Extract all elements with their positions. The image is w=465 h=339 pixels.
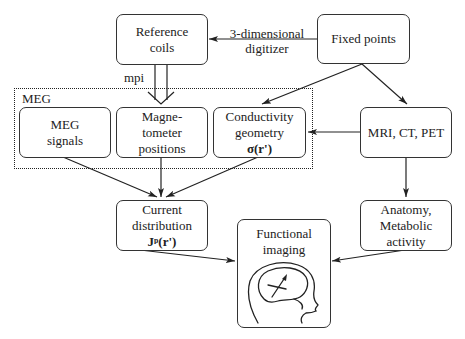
anatomy-line3: activity [387,234,426,250]
digitizer-line1: 3-dimensional [222,26,312,41]
digitizer-line2: digitizer [222,41,312,56]
meg-group-label: MEG [22,91,51,106]
fixed-points-box: Fixed points [317,14,410,64]
functional-line1: Functional [256,226,312,242]
anatomy-line1: Anatomy, [381,202,432,218]
current-line2: distribution [132,218,192,234]
arrow-current-imaging [140,250,235,261]
mri-ct-pet-label: MRI, CT, PET [368,125,444,141]
fixed-points-label: Fixed points [331,31,396,47]
anatomy-line2: Metabolic [380,218,433,234]
digitizer-label: 3-dimensional digitizer [222,26,312,56]
conductivity-math: σ(r') [247,141,272,157]
current-line1: Current [142,202,182,218]
magnetometer-line3: positions [139,141,186,157]
meg-signals-line1: MEG [51,117,80,133]
functional-line2: imaging [263,242,306,258]
anatomy-box: Anatomy, Metabolic activity [360,200,452,251]
mpi-label: mpi [124,70,144,85]
reference-coils-line1: Reference [136,24,189,40]
head-with-dipole-icon [244,259,324,325]
current-math: Jᵖ(r') [148,234,177,250]
reference-coils-line2: coils [150,40,175,56]
functional-imaging-box: Functional imaging [237,219,331,328]
meg-signals-line2: signals [47,133,83,149]
current-distribution-box: Current distribution Jᵖ(r') [116,200,208,251]
magnetometer-line1: Magne- [142,109,182,125]
conductivity-geometry-box: Conductivity geometry σ(r') [213,107,306,158]
conductivity-line2: geometry [235,125,284,141]
conductivity-line1: Conductivity [226,109,294,125]
meg-signals-box: MEG signals [19,107,111,158]
arrow-anatomy-imaging [332,250,405,261]
magnetometer-positions-box: Magne- tometer positions [116,107,208,158]
mri-ct-pet-box: MRI, CT, PET [360,107,452,158]
arrow-fixed-mri [362,64,407,104]
reference-coils-box: Reference coils [116,14,208,65]
magnetometer-line2: tometer [142,125,182,141]
